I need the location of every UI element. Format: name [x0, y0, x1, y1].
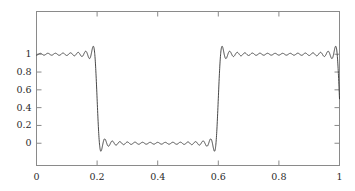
x-tick-label: 0.4: [138, 172, 178, 182]
y-tick-label: 0.6: [0, 85, 32, 95]
x-tick-label: 0.6: [198, 172, 238, 182]
y-tick-label: 0.2: [0, 120, 32, 130]
y-tick-label: 0.8: [0, 67, 32, 77]
x-tick-label: 0.8: [259, 172, 299, 182]
plot-canvas: [0, 0, 355, 191]
y-axis-ticks: [37, 54, 340, 143]
fourier-series-curve: [37, 46, 340, 151]
gibbs-phenomenon-figure: 00.20.40.60.81 00.20.40.60.81: [0, 0, 355, 191]
x-tick-label: 0: [17, 172, 57, 182]
y-tick-label: 0: [0, 138, 32, 148]
x-tick-label: 1: [320, 172, 355, 182]
y-tick-label: 1: [0, 49, 32, 59]
y-tick-label: 0.4: [0, 103, 32, 113]
x-tick-label: 0.2: [77, 172, 117, 182]
